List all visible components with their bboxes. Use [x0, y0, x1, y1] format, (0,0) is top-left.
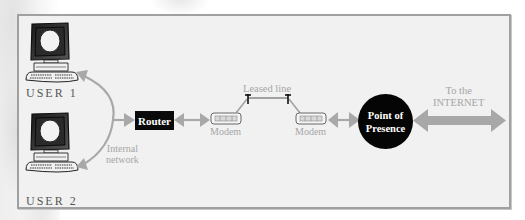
- arrow-head-modem-right-in: [328, 112, 338, 128]
- modem-icon-left: [211, 113, 241, 124]
- modem-icon-right: [296, 113, 326, 124]
- internal-network-label-line1: Internal: [106, 143, 139, 154]
- leased-line: [236, 94, 300, 113]
- arrow-head-modem-left-in: [200, 113, 210, 127]
- internal-network-label: Internal network: [106, 143, 139, 165]
- internet-label-line1: To the: [433, 85, 484, 97]
- user1-label: USER 1: [26, 86, 78, 101]
- arrow-head-router-in: [124, 113, 135, 127]
- computer-icon-user2: [26, 113, 78, 172]
- modem-left-label: Modem: [210, 126, 241, 137]
- user2-label: USER 2: [26, 194, 78, 209]
- pop-label-line1: Point of: [368, 109, 403, 122]
- diagram-canvas: [0, 0, 525, 220]
- computer-icon-user1: [26, 23, 78, 82]
- pop-label-line2: Presence: [366, 122, 405, 135]
- point-of-presence-node: Point of Presence: [358, 94, 413, 149]
- internet-label: To the INTERNET: [433, 85, 484, 109]
- internet-arrow: [413, 109, 506, 132]
- internet-label-line2: INTERNET: [433, 97, 484, 109]
- leased-line-label: Leased line: [243, 83, 291, 94]
- internal-network-label-line2: network: [106, 154, 139, 165]
- arrow-head-router-out: [174, 113, 184, 127]
- modem-right-label: Modem: [295, 126, 326, 137]
- router-node: Router: [135, 111, 174, 130]
